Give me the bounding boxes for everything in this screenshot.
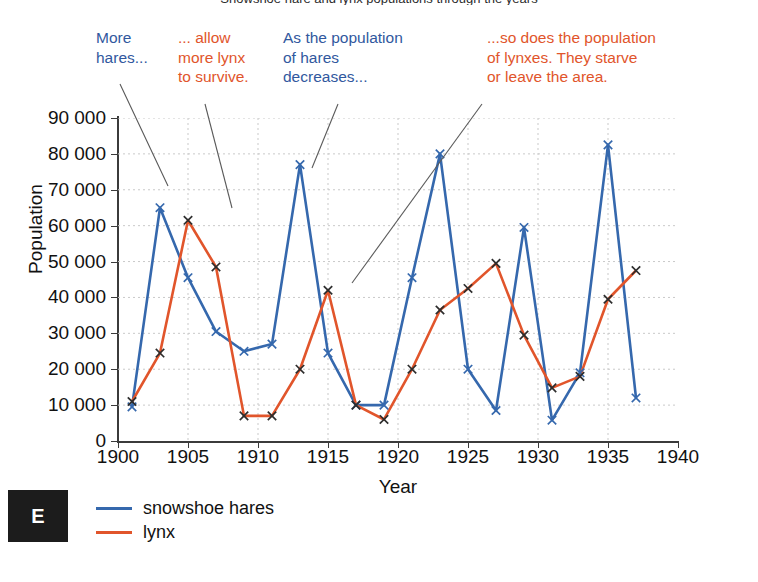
x-tick-mark: [468, 441, 469, 448]
annotation-lynx-starve: ...so does the population of lynxes. The…: [487, 28, 656, 87]
x-tick-label: 1925: [433, 446, 503, 468]
x-tick-mark: [188, 441, 189, 448]
data-point-marker: [464, 284, 472, 292]
x-tick-label: 1910: [223, 446, 293, 468]
y-tick-label: 90 000: [10, 107, 106, 129]
y-tick-mark: [111, 333, 118, 334]
x-tick-label: 1905: [153, 446, 223, 468]
x-axis-label: Year: [118, 476, 678, 498]
x-tick-label: 1920: [363, 446, 433, 468]
y-tick-mark: [111, 118, 118, 119]
data-point-marker: [380, 415, 388, 423]
x-tick-label: 1915: [293, 446, 363, 468]
x-tick-mark: [608, 441, 609, 448]
y-tick-label: 20 000: [10, 358, 106, 380]
annotation-hares-decrease: As the population of hares decreases...: [283, 28, 403, 87]
series-canvas: [118, 118, 678, 441]
annotation-allow-more-lynx: ... allow more lynx to survive.: [178, 28, 249, 87]
y-tick-mark: [111, 226, 118, 227]
y-tick-mark: [111, 262, 118, 263]
chart-title: Snowshoe hare and lynx populations throu…: [0, 0, 758, 5]
y-tick-mark: [111, 190, 118, 191]
plot-area: [118, 118, 678, 441]
data-point-marker: [632, 266, 640, 274]
y-tick-label: 30 000: [10, 322, 106, 344]
y-tick-mark: [111, 441, 118, 442]
series-line-snowshoe-hares: [132, 145, 636, 420]
legend-swatch-icon: [96, 531, 132, 534]
x-tick-mark: [328, 441, 329, 448]
legend-item: lynx: [96, 520, 274, 544]
x-tick-label: 1900: [83, 446, 153, 468]
chart-legend: snowshoe hareslynx: [96, 496, 274, 544]
legend-swatch-icon: [96, 507, 132, 510]
legend-item: snowshoe hares: [96, 496, 274, 520]
x-tick-mark: [678, 441, 679, 448]
x-tick-label: 1935: [573, 446, 643, 468]
exercise-badge: E: [8, 490, 68, 542]
x-tick-mark: [538, 441, 539, 448]
legend-label: lynx: [143, 522, 175, 543]
x-tick-label: 1940: [643, 446, 713, 468]
y-tick-mark: [111, 405, 118, 406]
x-tick-mark: [258, 441, 259, 448]
legend-label: snowshoe hares: [143, 498, 274, 519]
x-tick-label: 1930: [503, 446, 573, 468]
x-tick-mark: [118, 441, 119, 448]
y-tick-mark: [111, 369, 118, 370]
data-point-marker: [212, 327, 220, 335]
y-axis-label: Population: [25, 149, 47, 309]
x-tick-mark: [398, 441, 399, 448]
y-tick-mark: [111, 297, 118, 298]
y-tick-mark: [111, 154, 118, 155]
y-tick-label: 10 000: [10, 394, 106, 416]
annotation-more-hares: More hares...: [96, 28, 148, 67]
series-line-lynx: [132, 220, 636, 419]
